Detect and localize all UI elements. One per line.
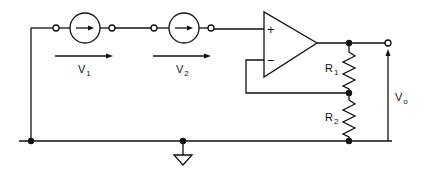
ground-icon — [174, 155, 192, 165]
terminal-src2-left — [151, 25, 157, 31]
node-bottom-left — [28, 138, 34, 144]
v2-label: V2 — [176, 63, 189, 78]
terminal-src2-right — [208, 25, 214, 31]
circuit-diagram: + − V1 V2 R1 R2 Vo — [0, 0, 426, 177]
source-2-arrow-icon — [187, 26, 193, 31]
v2-arrowhead-icon — [204, 54, 211, 59]
resistor-r1 — [343, 43, 355, 93]
r2-label: R2 — [325, 111, 339, 126]
node-divider — [346, 90, 352, 96]
source-1-arrow-icon — [88, 26, 94, 31]
r1-label: R1 — [325, 62, 339, 77]
v1-arrowhead-icon — [106, 54, 113, 59]
terminal-src1-right — [109, 25, 115, 31]
vo-arrowhead-icon — [386, 49, 391, 56]
vo-label: Vo — [395, 91, 408, 106]
node-output — [346, 40, 352, 46]
terminal-output — [385, 40, 391, 46]
op-amp-minus-label: − — [267, 53, 275, 68]
op-amp-plus-label: + — [267, 22, 275, 37]
resistor-r2 — [343, 93, 355, 141]
terminal-src1-left — [53, 25, 59, 31]
node-bottom-right — [346, 138, 352, 144]
v1-label: V1 — [78, 63, 91, 78]
node-ground — [180, 138, 186, 144]
